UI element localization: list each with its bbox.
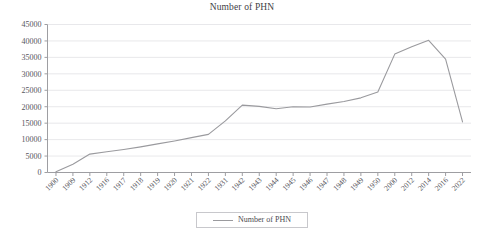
x-axis-tick-label: 2014 [416, 175, 433, 192]
x-axis-tick-label: 1909 [60, 175, 77, 192]
y-axis-tick-label: 0 [38, 168, 42, 177]
y-axis-tick-label: 25000 [22, 86, 42, 95]
line-swatch-icon [213, 220, 233, 221]
x-axis-tick-label: 1921 [179, 175, 196, 192]
legend-label: Number of PHN [238, 216, 291, 224]
x-axis-tick-label: 2016 [433, 175, 450, 192]
y-axis-tick-label: 20000 [22, 103, 42, 112]
x-axis-tick-label: 1917 [111, 175, 128, 192]
y-axis-tick-label: 5000 [26, 152, 42, 161]
x-axis-tick-label: 1916 [94, 175, 111, 192]
chart-plot: 0500010000150002000025000300003500040000… [0, 0, 484, 241]
y-axis-tick-label: 40000 [22, 37, 42, 46]
x-axis-tick-label: 1948 [331, 175, 348, 192]
x-axis-tick-label: 1950 [365, 175, 382, 192]
y-axis-tick-label: 35000 [22, 53, 42, 62]
x-axis-tick-label: 1920 [162, 175, 179, 192]
x-axis-tick-label: 1918 [128, 175, 145, 192]
x-axis-tick-label: 1931 [213, 175, 230, 192]
x-axis-tick-label: 1942 [230, 175, 247, 192]
x-axis-tick-label: 1946 [297, 175, 314, 192]
x-axis-tick-label: 2012 [399, 175, 416, 192]
y-axis-tick-label: 10000 [22, 135, 42, 144]
data-series-line [56, 40, 463, 172]
chart-legend: Number of PHN [196, 212, 308, 228]
x-axis-tick-label: 1945 [280, 175, 297, 192]
x-axis-tick-label: 1912 [77, 175, 94, 192]
chart-container: Number of PHN 05000100001500020000250003… [0, 0, 484, 241]
x-axis-tick-label: 1944 [264, 175, 281, 192]
x-axis-tick-label: 1943 [247, 175, 264, 192]
x-axis-tick-label: 1949 [348, 175, 365, 192]
x-axis-tick-label: 1922 [196, 175, 213, 192]
y-axis-tick-label: 45000 [22, 20, 42, 29]
x-axis-tick-label: 1947 [314, 175, 331, 192]
x-axis-tick-label: 1919 [145, 175, 162, 192]
y-axis-tick-label: 15000 [22, 119, 42, 128]
x-axis-tick-label: 1900 [43, 175, 60, 192]
x-axis-tick-label: 2000 [382, 175, 399, 192]
y-axis-tick-label: 30000 [22, 70, 42, 79]
x-axis-tick-label: 2022 [450, 175, 467, 192]
